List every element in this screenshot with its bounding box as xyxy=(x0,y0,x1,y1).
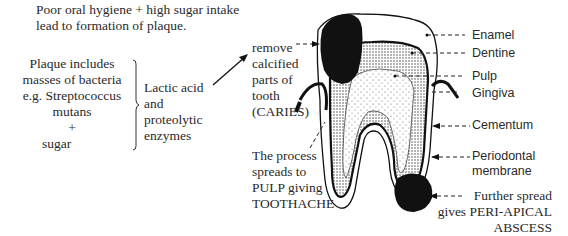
intro-line-2: lead to formation of plaque. xyxy=(36,18,239,34)
caries-line: tooth xyxy=(252,88,309,104)
products-line: enzymes xyxy=(144,128,204,144)
products-text: Lactic acid and proteolytic enzymes xyxy=(144,80,204,144)
pulp-spread-line: TOOTHACHE xyxy=(252,196,334,212)
intro-line-1: Poor oral hygiene + high sugar intake xyxy=(36,2,239,18)
label-periodontal-membrane: Periodontal membrane xyxy=(472,149,535,179)
label-gingiva: Gingiva xyxy=(472,86,514,101)
label-periodontal-line: membrane xyxy=(472,164,535,179)
caries-line: calcified xyxy=(252,56,309,72)
label-dentine: Dentine xyxy=(472,46,515,61)
abscess-line: ABSCESS xyxy=(432,220,552,236)
caries-line: parts of xyxy=(252,72,309,88)
plaque-line: sugar xyxy=(20,136,124,152)
plaque-line: masses of bacteria xyxy=(20,72,124,88)
caries-region xyxy=(320,14,362,84)
plaque-line: mutans xyxy=(20,104,124,120)
plaque-line: Plaque includes xyxy=(20,56,124,72)
products-line: and xyxy=(144,96,204,112)
intro-text: Poor oral hygiene + high sugar intake le… xyxy=(36,2,239,34)
abscess-text: Further spread gives PERI-APICAL ABSCESS xyxy=(432,188,552,236)
abscess-line: Further spread xyxy=(432,188,552,204)
pulp-spread-line: The process xyxy=(252,148,334,164)
products-line: Lactic acid xyxy=(144,80,204,96)
plaque-line: e.g. Streptococcus xyxy=(20,88,124,104)
caries-line: remove xyxy=(252,40,309,56)
caries-text: remove calcified parts of tooth (CARIES) xyxy=(252,40,309,120)
label-periodontal-line: Periodontal xyxy=(472,149,535,164)
abscess-region xyxy=(394,173,432,212)
label-cementum: Cementum xyxy=(472,118,533,133)
products-line: proteolytic xyxy=(144,112,204,128)
pulp-spread-text: The process spreads to PULP giving TOOTH… xyxy=(252,148,334,212)
plaque-text: Plaque includes masses of bacteria e.g. … xyxy=(20,56,124,152)
pulp-spread-line: PULP giving xyxy=(252,180,334,196)
caries-line: (CARIES) xyxy=(252,104,309,120)
plaque-line: + xyxy=(20,120,124,136)
label-pulp: Pulp xyxy=(472,69,497,84)
abscess-line: gives PERI-APICAL xyxy=(432,204,552,220)
label-enamel: Enamel xyxy=(472,28,514,43)
pulp-spread-line: spreads to xyxy=(252,164,334,180)
